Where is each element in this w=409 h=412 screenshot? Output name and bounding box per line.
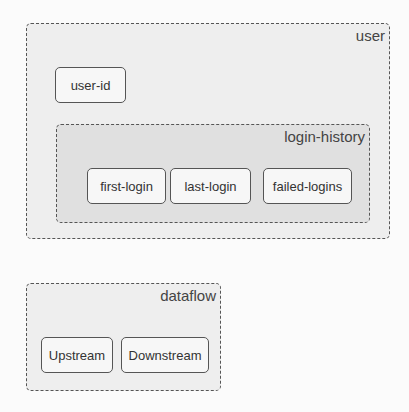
node-last-login[interactable]: last-login <box>170 168 251 204</box>
node-downstream[interactable]: Downstream <box>121 337 209 373</box>
group-label-user: user <box>356 28 385 43</box>
group-label-login-history: login-history <box>284 129 365 144</box>
group-label-dataflow: dataflow <box>160 288 216 303</box>
node-first-login[interactable]: first-login <box>87 168 166 204</box>
node-user-id[interactable]: user-id <box>55 67 126 103</box>
node-failed-logins[interactable]: failed-logins <box>263 168 352 204</box>
node-upstream[interactable]: Upstream <box>41 337 113 373</box>
